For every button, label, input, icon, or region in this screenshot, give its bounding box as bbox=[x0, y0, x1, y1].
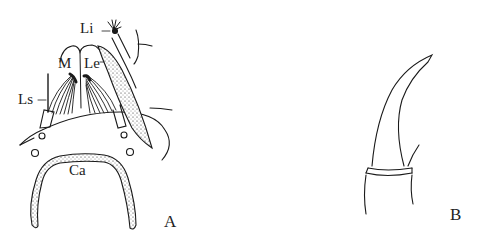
panel-letter-b: B bbox=[450, 206, 461, 223]
label-m: M bbox=[58, 56, 71, 71]
label-li: Li bbox=[80, 21, 93, 36]
panel-b: B bbox=[242, 0, 485, 242]
label-ca: Ca bbox=[69, 163, 86, 178]
label-le: Le bbox=[84, 56, 100, 71]
claw-drawing bbox=[242, 0, 485, 242]
panel-letter-a: A bbox=[164, 213, 176, 230]
label-ls: Ls bbox=[18, 92, 33, 107]
panel-a: Li M Le Ls Ca A bbox=[0, 0, 242, 242]
mouthparts-drawing bbox=[0, 0, 242, 242]
